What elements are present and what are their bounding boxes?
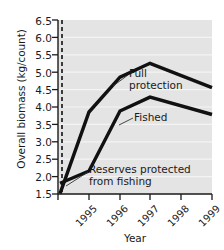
x-axis-title: Year — [58, 232, 212, 244]
y-tick-marks — [52, 20, 58, 194]
x-tick-marks — [58, 194, 212, 200]
annotation-reserves-protected: Reserves protected from fishing — [89, 164, 191, 188]
annotation-full-protection-line1: Full — [129, 68, 183, 80]
annotation-fished: Fished — [134, 112, 167, 124]
annotation-reserves-line1: Reserves protected — [89, 164, 191, 176]
annotation-full-protection: Full protection — [129, 68, 183, 92]
chart-figure: Overall biomass (kg/count) 6.5 6.0 5.5 5… — [0, 0, 224, 250]
annotation-fished-line1: Fished — [134, 112, 167, 124]
annotation-reserves-line2: from fishing — [89, 176, 191, 188]
annotation-full-protection-line2: protection — [129, 80, 183, 92]
